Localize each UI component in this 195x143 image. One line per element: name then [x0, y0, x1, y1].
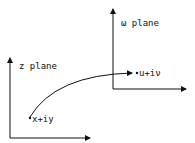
w-point-label: u+iν	[139, 68, 161, 78]
z-plane-title: z plane	[19, 61, 57, 71]
w-point	[136, 72, 138, 74]
conformal-map-diagram: z plane x+iy ω plane u+iν	[0, 0, 195, 143]
z-point	[29, 117, 31, 119]
diagram-canvas: z plane x+iy ω plane u+iν	[0, 0, 195, 143]
z-point-label: x+iy	[32, 114, 54, 124]
w-plane-title: ω plane	[121, 18, 159, 28]
mapping-arrow	[30, 73, 132, 117]
